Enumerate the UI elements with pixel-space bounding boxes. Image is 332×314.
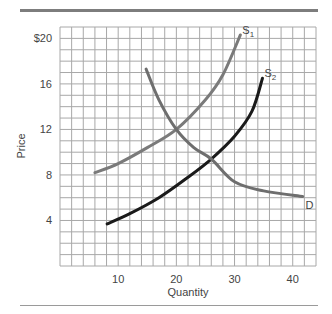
curve-label-d: D [306, 199, 314, 211]
curve-labels: S1S2D [242, 24, 313, 211]
x-axis-ticks: 10203040 [112, 273, 299, 285]
supply-demand-chart: 481216$20 10203040 Price Quantity S1S2D [0, 0, 332, 314]
curve-s2 [107, 78, 262, 224]
y-tick-label: 4 [46, 214, 52, 226]
x-axis-label: Quantity [168, 286, 209, 298]
x-tick-label: 20 [170, 273, 182, 285]
y-tick-label: $20 [34, 32, 52, 44]
y-tick-label: 8 [46, 169, 52, 181]
y-axis-label: Price [15, 133, 27, 158]
curve-label-s1: S1 [242, 24, 254, 39]
grid [60, 27, 316, 266]
curve-label-s2: S2 [264, 67, 276, 82]
y-axis-ticks: 481216$20 [34, 32, 52, 226]
y-tick-label: 16 [40, 78, 52, 90]
y-tick-label: 12 [40, 123, 52, 135]
x-tick-label: 10 [112, 273, 124, 285]
x-tick-label: 40 [287, 273, 299, 285]
x-tick-label: 30 [228, 273, 240, 285]
